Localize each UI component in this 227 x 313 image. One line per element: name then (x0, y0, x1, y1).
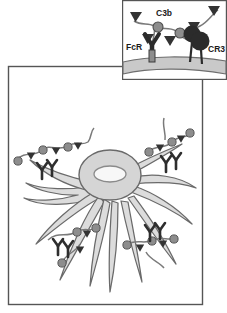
antigen-sphere (14, 157, 22, 165)
membrane-detail-inset: C3b FcR CR3 (122, 0, 227, 80)
label-fcr: FcR (126, 42, 142, 52)
antigen-sphere (58, 259, 66, 267)
antigen-sphere (186, 129, 194, 137)
antigen-sphere (170, 235, 178, 243)
antigen-sphere (39, 146, 47, 154)
c3b-sphere (175, 28, 185, 38)
antigen-sphere (168, 138, 176, 146)
nucleus (94, 166, 126, 182)
antigen-sphere (92, 224, 100, 232)
antigen-sphere (123, 241, 131, 249)
label-cr3: CR3 (208, 44, 225, 54)
label-c3b: C3b (156, 8, 172, 18)
antigen-sphere (64, 143, 72, 151)
antigen-sphere (73, 228, 81, 236)
antigen-sphere (145, 148, 153, 156)
c3b-sphere (153, 22, 163, 32)
figure-root: C3b FcR CR3 (0, 0, 227, 313)
